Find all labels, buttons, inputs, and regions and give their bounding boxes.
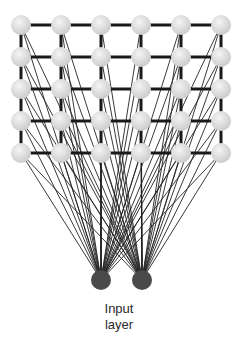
connection-line — [61, 121, 101, 280]
hidden-node — [91, 15, 111, 35]
hidden-node — [91, 47, 111, 67]
input-node — [132, 270, 152, 290]
hidden-node — [211, 79, 231, 99]
hidden-node — [131, 15, 151, 35]
connection-line — [142, 153, 221, 280]
hidden-node — [171, 79, 191, 99]
hidden-node — [11, 79, 31, 99]
input-layer-nodes — [91, 270, 152, 290]
hidden-node — [51, 143, 71, 163]
hidden-node — [211, 143, 231, 163]
hidden-node — [131, 111, 151, 131]
neural-network-diagram — [0, 0, 238, 341]
connection-line — [61, 153, 101, 280]
connection-line — [61, 153, 142, 280]
hidden-node — [91, 79, 111, 99]
hidden-node — [51, 79, 71, 99]
connection-line — [21, 153, 101, 280]
hidden-node — [171, 15, 191, 35]
input-node — [91, 270, 111, 290]
hidden-node — [211, 15, 231, 35]
hidden-node — [51, 47, 71, 67]
hidden-node — [131, 79, 151, 99]
hidden-node — [11, 15, 31, 35]
hidden-node — [211, 111, 231, 131]
hidden-node — [91, 111, 111, 131]
hidden-node — [51, 111, 71, 131]
hidden-node — [171, 111, 191, 131]
hidden-node — [11, 111, 31, 131]
input-layer-label-line1: Input — [0, 301, 238, 317]
hidden-node — [51, 15, 71, 35]
hidden-node — [171, 47, 191, 67]
hidden-node — [91, 143, 111, 163]
hidden-node — [171, 143, 191, 163]
hidden-node — [131, 47, 151, 67]
input-layer-label-line2: layer — [0, 317, 238, 333]
hidden-node — [211, 47, 231, 67]
hidden-node — [131, 143, 151, 163]
hidden-node — [11, 143, 31, 163]
hidden-node — [11, 47, 31, 67]
